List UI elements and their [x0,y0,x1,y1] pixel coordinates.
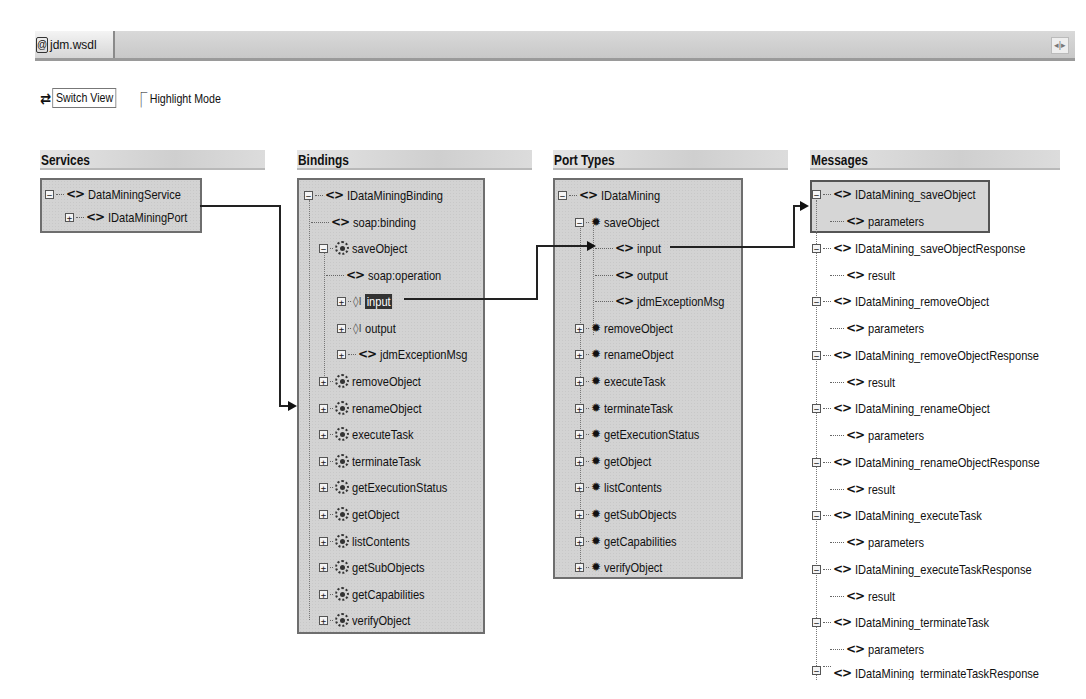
tree-node[interactable]: +✹renameObject [575,344,689,364]
tree-node[interactable]: +✹getCapabilities [575,531,693,551]
expand-icon[interactable]: + [575,563,584,572]
collapse-icon[interactable]: − [812,458,821,467]
tree-node[interactable]: +◊Ioutput [337,318,402,338]
message-node[interactable]: −<>IDataMining_removeObject [812,291,1019,311]
tree-node[interactable]: +executeTask [319,424,427,444]
tab-jdm-wsdl[interactable]: @ jdm.wsdl [35,31,115,58]
message-node[interactable]: −<>IDataMining_executeTaskResponse [812,559,1070,579]
expand-icon[interactable]: + [337,297,346,306]
tree-node[interactable]: +terminateTask [319,451,436,471]
message-node[interactable]: −<>IDataMining_saveObjectResponse [812,238,1063,258]
collapse-icon[interactable]: − [812,244,821,253]
message-node[interactable]: −<>IDataMining_executeTask [812,505,1010,525]
message-part[interactable]: <>result [830,479,901,499]
tab-scroll-arrows-icon[interactable]: ◂|▸ [1051,37,1069,54]
message-node[interactable]: −<>IDataMining_removeObjectResponse [812,345,1079,365]
collapse-icon[interactable]: − [812,666,821,675]
operation-gear-icon: ✹ [591,454,601,468]
expand-icon[interactable]: + [319,404,328,413]
expand-icon[interactable]: + [575,457,584,466]
tree-node[interactable]: −<>IDataMining [558,185,673,205]
message-part[interactable]: <>result [830,372,901,392]
tree-node[interactable]: <>soap:binding [311,212,430,232]
tree-node[interactable]: <>input [595,238,666,258]
tree-node[interactable]: +✹getExecutionStatus [575,424,720,444]
tree-node[interactable]: +✹listContents [575,477,675,497]
tree-node[interactable]: −<>IDataMiningBinding [304,185,464,205]
expand-icon[interactable]: + [319,510,328,519]
expand-icon[interactable]: + [319,616,328,625]
highlight-mode-button[interactable]: ⎾ Highlight Mode [135,88,221,109]
collapse-icon[interactable]: − [558,191,567,200]
tree-node[interactable]: +getExecutionStatus [319,477,468,497]
expand-icon[interactable]: + [319,377,328,386]
tree-node[interactable]: +verifyObject [319,610,423,630]
tree-node[interactable]: +<>jdmExceptionMsg [337,344,487,364]
collapse-icon[interactable]: − [812,511,821,520]
expand-icon[interactable]: + [575,510,584,519]
tree-node[interactable]: +✹removeObject [575,318,688,338]
collapse-icon[interactable]: − [812,351,821,360]
expand-icon[interactable]: + [575,483,584,492]
expand-icon[interactable]: + [319,483,328,492]
message-node[interactable]: −<>IDataMining_terminateTask [812,612,1019,632]
collapse-icon[interactable]: − [812,190,821,199]
message-part[interactable]: <>parameters [830,425,936,445]
expand-icon[interactable]: + [575,377,584,386]
expand-icon[interactable]: + [319,457,328,466]
tree-node[interactable]: −✹saveObject [575,212,672,232]
expand-icon[interactable]: + [337,350,346,359]
element-tag-icon: <> [846,268,864,282]
expand-icon[interactable]: + [65,213,74,222]
collapse-icon[interactable]: − [45,190,54,199]
tree-node[interactable]: +✹getObject [575,451,662,471]
node-label: input [637,241,661,256]
message-part[interactable]: <>parameters [830,211,936,231]
tree-node[interactable]: +✹terminateTask [575,398,688,418]
expand-icon[interactable]: + [575,350,584,359]
message-part[interactable]: <>result [830,586,901,606]
tree-node[interactable]: + <> IDataMiningPort [65,207,205,227]
tree-node[interactable]: <>soap:operation [326,265,457,285]
collapse-icon[interactable]: − [812,297,821,306]
tree-node[interactable]: +listContents [319,531,423,551]
expand-icon[interactable]: + [319,430,328,439]
message-node[interactable]: −<>IDataMining_terminateTaskResponse [812,666,1079,680]
tree-node[interactable]: +renameObject [319,398,437,418]
tree-node[interactable]: +getSubObjects [319,557,441,577]
expand-icon[interactable]: + [575,324,584,333]
tree-node[interactable]: +getCapabilities [319,584,441,604]
message-part[interactable]: <>parameters [830,532,936,552]
expand-icon[interactable]: + [575,430,584,439]
expand-icon[interactable]: + [319,563,328,572]
tree-node[interactable]: −saveObject [319,238,420,258]
expand-icon[interactable]: + [319,537,328,546]
message-node[interactable]: −<>IDataMining_renameObject [812,398,1019,418]
message-part[interactable]: <>parameters [830,639,936,659]
collapse-icon[interactable]: − [812,404,821,413]
message-node[interactable]: −<>IDataMining_renameObjectResponse [812,452,1080,472]
expand-icon[interactable]: + [575,537,584,546]
collapse-icon[interactable]: − [575,218,584,227]
message-part[interactable]: <>result [830,265,901,285]
tree-node[interactable]: +✹getSubObjects [575,504,693,524]
tree-node[interactable]: +✹verifyObject [575,557,675,577]
expand-icon[interactable]: + [337,324,346,333]
collapse-icon[interactable]: − [812,618,821,627]
message-node[interactable]: −<>IDataMining_saveObject [812,184,1002,204]
collapse-icon[interactable]: − [319,244,328,253]
message-part[interactable]: <>parameters [830,318,936,338]
collapse-icon[interactable]: − [812,565,821,574]
tree-node[interactable]: <>output [595,265,675,285]
element-tag-icon: <> [615,294,633,308]
tree-node[interactable]: − <> DataMiningService [45,184,201,204]
tree-node[interactable]: +✹executeTask [575,371,679,391]
switch-view-button[interactable]: ⇄ Switch View [40,88,116,108]
tree-node[interactable]: +removeObject [319,371,436,391]
tree-node[interactable]: <>jdmExceptionMsg [595,291,744,311]
tree-node-selected[interactable]: +◊Iinput [337,291,398,311]
expand-icon[interactable]: + [319,590,328,599]
collapse-icon[interactable]: − [304,191,313,200]
tree-node[interactable]: +getObject [319,504,410,524]
expand-icon[interactable]: + [575,404,584,413]
